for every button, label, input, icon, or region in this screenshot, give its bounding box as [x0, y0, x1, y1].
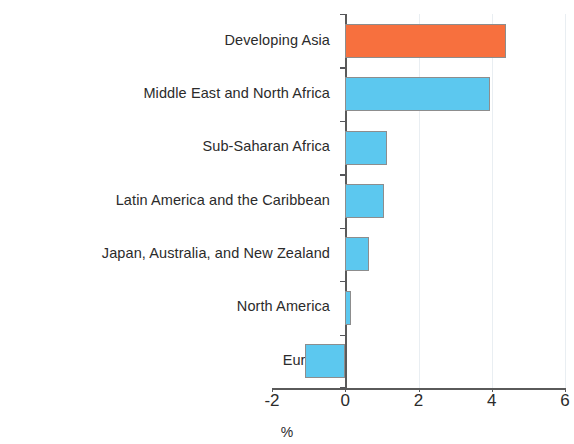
bar-chart: Developing Asia Middle East and North Af… [0, 0, 574, 444]
gridline-2 [419, 14, 420, 388]
gridline-6 [565, 14, 566, 388]
y-axis-tick [340, 228, 345, 229]
x-axis-tick-label-4: 4 [472, 392, 512, 409]
x-axis-tick-label--2: -2 [252, 392, 292, 409]
x-axis-title: % [0, 424, 574, 440]
plot-area [272, 14, 565, 388]
y-axis-tick [340, 121, 345, 122]
y-axis-tick [340, 174, 345, 175]
y-axis-tick [340, 14, 345, 15]
bar-sub-saharan-africa [345, 131, 387, 165]
y-axis-tick [340, 281, 345, 282]
bar-middle-east-and-north-africa [345, 77, 490, 111]
bar-japan-australia-and-new-zealand [345, 237, 369, 271]
x-axis-tick-label-0: 0 [325, 392, 365, 409]
y-axis-tick [340, 335, 345, 336]
bar-europe [305, 344, 345, 378]
x-axis-tick-label-2: 2 [399, 392, 439, 409]
x-axis-tick-label-6: 6 [545, 392, 574, 409]
bar-developing-asia [345, 24, 506, 58]
gridline-4 [492, 14, 493, 388]
bar-north-america [345, 291, 350, 325]
bar-latin-america-and-the-caribbean [345, 184, 383, 218]
y-axis-tick [340, 67, 345, 68]
